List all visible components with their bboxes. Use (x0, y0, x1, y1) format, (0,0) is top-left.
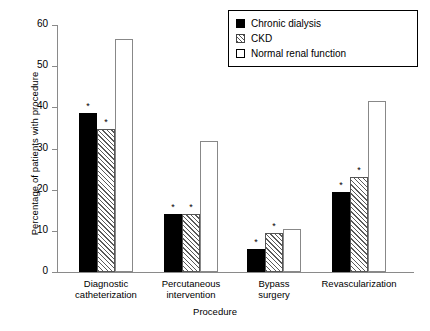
significance-marker: * (265, 222, 283, 231)
bar (247, 249, 265, 272)
x-axis-category-label-line: surgery (214, 289, 334, 300)
y-axis-tick: 60 (52, 25, 57, 26)
bar-chart: Percentage of patients with procedure 01… (0, 0, 430, 331)
bar (265, 233, 283, 272)
bar (115, 39, 133, 272)
bar (182, 214, 200, 272)
y-axis-tick-label: 50 (37, 59, 48, 70)
legend: Chronic dialysis CKD Normal renal functi… (228, 10, 418, 67)
y-axis-tick-label: 60 (37, 18, 48, 29)
y-axis-tick-label: 0 (42, 265, 48, 276)
y-axis-tick-label: 40 (37, 100, 48, 111)
y-axis-tick: 30 (52, 149, 57, 150)
bar (283, 229, 301, 272)
legend-item-normal-renal-function: Normal renal function (236, 46, 411, 61)
significance-marker: * (97, 118, 115, 127)
x-axis-line (57, 272, 414, 273)
y-axis-tick: 40 (52, 107, 57, 108)
significance-marker: * (79, 102, 97, 111)
legend-item-label: Chronic dialysis (251, 18, 321, 29)
bar (164, 214, 182, 272)
solid-black-square-icon (236, 19, 245, 28)
y-axis-tick: 0 (52, 272, 57, 273)
y-axis-tick-label: 30 (37, 142, 48, 153)
bar (200, 141, 218, 272)
y-axis-tick: 20 (52, 190, 57, 191)
bar (332, 192, 350, 272)
x-axis-category-label-line: Revascularization (299, 278, 419, 289)
bar (350, 177, 368, 272)
bar (79, 113, 97, 272)
significance-marker: * (247, 238, 265, 247)
y-axis-tick-label: 20 (37, 183, 48, 194)
legend-item-ckd: CKD (236, 31, 411, 46)
x-axis-title: Procedure (0, 306, 430, 317)
y-axis-line (57, 25, 58, 273)
significance-marker: * (332, 181, 350, 190)
x-axis-category-label: Revascularization (299, 278, 419, 289)
significance-marker: * (182, 203, 200, 212)
significance-marker: * (350, 166, 368, 175)
y-axis-tick: 10 (52, 231, 57, 232)
hatched-square-icon (236, 34, 245, 43)
bar (368, 101, 386, 272)
significance-marker: * (164, 203, 182, 212)
legend-item-label: CKD (251, 33, 272, 44)
y-axis-tick-label: 10 (37, 224, 48, 235)
legend-item-label: Normal renal function (251, 48, 346, 59)
y-axis-tick: 50 (52, 66, 57, 67)
legend-item-chronic-dialysis: Chronic dialysis (236, 16, 411, 31)
bar (97, 129, 115, 272)
open-square-icon (236, 49, 245, 58)
